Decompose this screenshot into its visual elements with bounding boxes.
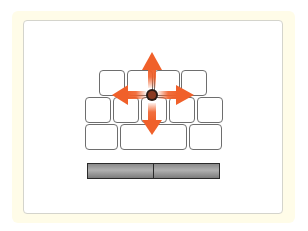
arrow-left-icon <box>112 85 146 105</box>
arrow-down-icon <box>142 103 162 135</box>
trackpoint-icon <box>146 89 158 101</box>
left-click-button <box>88 164 153 178</box>
right-click-button <box>153 164 219 178</box>
arrow-right-icon <box>158 85 194 105</box>
direction-arrows <box>0 0 308 231</box>
arrow-up-icon <box>142 52 162 88</box>
mouse-buttons-bar <box>87 163 220 179</box>
